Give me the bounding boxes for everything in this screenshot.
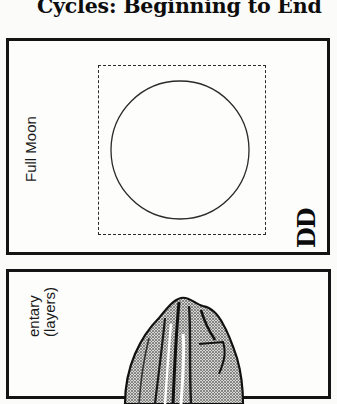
sedimentary-rock-icon: [119, 294, 249, 404]
card-label-line2: (layers): [42, 287, 57, 337]
page-title: Cycles: Beginning to End: [37, 0, 322, 18]
full-moon-circle-icon: [9, 41, 327, 252]
card-label-line1: entary: [26, 295, 41, 337]
card-full-moon: Full Moon DD: [6, 38, 330, 255]
card-label: Full Moon: [22, 116, 39, 182]
card-code: DD: [292, 208, 321, 248]
card-sedimentary: entary (layers): [6, 269, 331, 399]
